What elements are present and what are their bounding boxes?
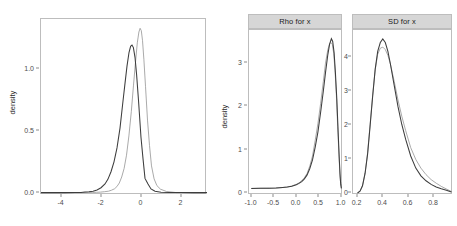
x-tick-label: -2 (88, 199, 114, 206)
x-tick-mark (318, 194, 319, 197)
y-tick-label: 0 (222, 189, 242, 196)
intercept-panel-ylabel: density (8, 83, 17, 123)
y-tick-mark (348, 90, 351, 91)
y-tick-label: 1 (222, 145, 242, 152)
intercept-plot-area (40, 18, 206, 194)
density-curve-posterior-a (251, 39, 341, 189)
x-tick-mark (273, 194, 274, 197)
y-tick-mark (244, 105, 247, 106)
intercept-curves (41, 19, 207, 195)
x-tick-mark (356, 194, 357, 197)
y-tick-label: 3 (328, 87, 348, 94)
x-tick-mark (407, 194, 408, 197)
x-tick-label: 2 (168, 199, 194, 206)
y-tick-label: 0 (328, 189, 348, 196)
y-tick-label: 2 (222, 102, 242, 109)
density-curve-posterior-b (358, 47, 452, 193)
y-tick-label: 0.0 (8, 189, 34, 196)
x-tick-label: 0.8 (421, 199, 445, 206)
y-tick-label: 4 (328, 53, 348, 60)
x-tick-label: -1.0 (239, 199, 263, 206)
x-tick-mark (180, 194, 181, 197)
sd-curves (353, 30, 453, 195)
x-tick-label: 0.2 (345, 199, 369, 206)
sd-plot-area (352, 29, 452, 194)
x-tick-label: -0.5 (261, 199, 285, 206)
y-tick-label: 3 (222, 58, 242, 65)
density-curve-posterior-a (41, 45, 207, 193)
y-tick-mark (244, 148, 247, 149)
x-tick-label: 0.4 (370, 199, 394, 206)
sd-panel-strip-label: SD for x (388, 18, 416, 26)
x-tick-mark (295, 194, 296, 197)
y-tick-mark (36, 192, 39, 193)
y-tick-label: 1 (328, 155, 348, 162)
y-tick-mark (348, 56, 351, 57)
y-tick-mark (244, 192, 247, 193)
y-tick-label: 0.5 (8, 127, 34, 134)
y-tick-mark (348, 124, 351, 125)
x-tick-label: 0 (128, 199, 154, 206)
x-tick-label: 0.6 (396, 199, 420, 206)
y-tick-mark (36, 68, 39, 69)
x-tick-mark (60, 194, 61, 197)
y-tick-label: 2 (328, 121, 348, 128)
y-tick-mark (36, 130, 39, 131)
x-tick-mark (382, 194, 383, 197)
sd-panel-strip: SD for x (352, 14, 452, 29)
x-tick-label: 0.0 (284, 199, 308, 206)
y-tick-mark (348, 192, 351, 193)
rho-panel-strip-label: Rho for x (279, 18, 310, 26)
density-plot-figure: density 0.0 0.5 1.0 -4 -2 0 2 (0, 0, 457, 226)
density-curve-posterior-b (41, 28, 207, 192)
density-curve-posterior-b (251, 43, 341, 189)
y-tick-label: 1.0 (8, 65, 34, 72)
x-tick-label: 0.5 (306, 199, 330, 206)
x-tick-mark (140, 194, 141, 197)
rho-panel-strip: Rho for x (248, 14, 342, 29)
y-tick-mark (244, 61, 247, 62)
x-tick-mark (100, 194, 101, 197)
x-tick-mark (433, 194, 434, 197)
density-curve-posterior-a (358, 39, 452, 193)
x-tick-mark (250, 194, 251, 197)
x-tick-label: -4 (48, 199, 74, 206)
y-tick-mark (348, 158, 351, 159)
